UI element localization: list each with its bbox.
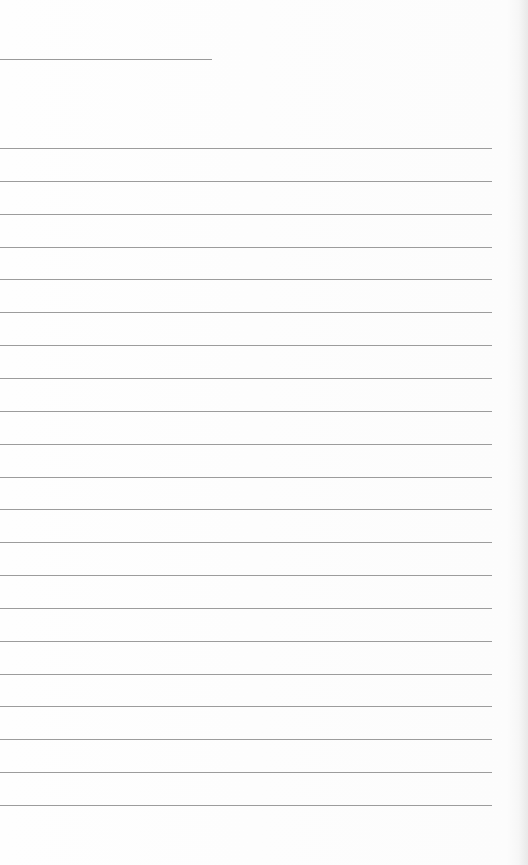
ruled-line bbox=[0, 214, 492, 215]
ruled-line bbox=[0, 312, 492, 313]
ruled-line bbox=[0, 378, 492, 379]
page-edge-shadow bbox=[518, 0, 528, 865]
ruled-line bbox=[0, 444, 492, 445]
ruled-line bbox=[0, 805, 492, 806]
ruled-line bbox=[0, 706, 492, 707]
ruled-line bbox=[0, 674, 492, 675]
ruled-line bbox=[0, 608, 492, 609]
ruled-line bbox=[0, 772, 492, 773]
ruled-line bbox=[0, 181, 492, 182]
ruled-line bbox=[0, 641, 492, 642]
ruled-line bbox=[0, 739, 492, 740]
ruled-line bbox=[0, 345, 492, 346]
ruled-line bbox=[0, 542, 492, 543]
ruled-line bbox=[0, 279, 492, 280]
ruled-line bbox=[0, 575, 492, 576]
lined-paper-page bbox=[0, 0, 528, 865]
ruled-line bbox=[0, 247, 492, 248]
ruled-line bbox=[0, 148, 492, 149]
ruled-line bbox=[0, 477, 492, 478]
ruled-line bbox=[0, 509, 492, 510]
ruled-lines bbox=[0, 0, 528, 865]
ruled-line bbox=[0, 411, 492, 412]
